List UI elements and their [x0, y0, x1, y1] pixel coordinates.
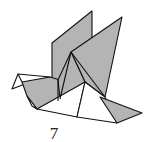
step-number: 7 [46, 124, 62, 142]
origami-diagram: 7 [0, 0, 152, 142]
origami-bird-illustration [0, 0, 152, 142]
